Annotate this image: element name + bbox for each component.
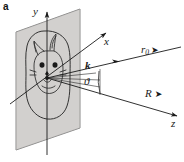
r-zero-label-group: r0➤ (141, 44, 159, 57)
angle-theta-label: ϑ (84, 76, 89, 87)
origin-point (45, 76, 49, 80)
big-r-arrow-icon: ➤ (155, 89, 163, 99)
y-axis-label: y (33, 6, 38, 17)
r-zero-arrow-icon: ➤ (151, 45, 159, 55)
big-r-label-group: R➤ (145, 88, 162, 99)
z-axis-label: z (171, 118, 175, 129)
panel-letter: a (3, 2, 9, 12)
r-zero-subscript: 0 (145, 48, 149, 57)
k-vector-label: k (85, 60, 91, 71)
diagram-canvas (0, 0, 184, 162)
figure-panel-a: a y x z k ϑ r0➤ R➤ (0, 0, 184, 162)
x-axis-label: x (104, 36, 109, 47)
big-r-base: R (145, 87, 152, 99)
